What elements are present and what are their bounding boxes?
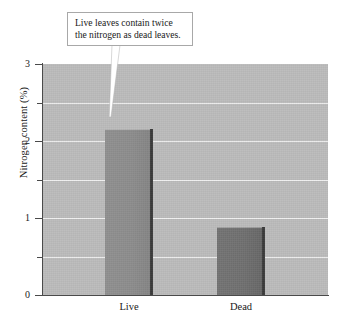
y-axis-title: Nitrogen content (%)	[18, 63, 29, 203]
y-tick-label-1: 1	[8, 213, 30, 223]
callout-line-2: the nitrogen as dead leaves.	[75, 29, 186, 41]
gridline-0_5	[42, 257, 328, 258]
x-tick-label-dead: Dead	[211, 301, 271, 312]
bar-live	[105, 129, 153, 295]
y-tick-0	[35, 295, 43, 296]
bar-chart-figure: 3 2 1 0 Nitrogen content (%) Live Dead L…	[0, 0, 337, 322]
plot-area	[42, 64, 328, 295]
bar-live-face	[105, 129, 153, 295]
y-tick-1_5	[37, 180, 43, 181]
y-tick-2_5	[37, 103, 43, 104]
gridline-2_5	[42, 103, 328, 104]
callout-line-1: Live leaves contain twice	[75, 17, 186, 29]
y-tick-2	[35, 141, 43, 142]
bar-dead-top-highlight	[217, 227, 265, 228]
y-tick-3	[35, 64, 43, 65]
gridline-1_5	[42, 180, 328, 181]
callout-annotation: Live leaves contain twice the nitrogen a…	[67, 12, 193, 46]
y-tick-0_5	[37, 257, 43, 258]
x-tick-label-live: Live	[99, 301, 159, 312]
y-tick-1	[35, 218, 43, 219]
bar-dead-face	[217, 227, 265, 295]
bar-live-right-edge	[150, 129, 153, 295]
bar-dead	[217, 227, 265, 295]
bar-dead-right-edge	[262, 227, 265, 295]
callout-pointer	[96, 45, 136, 137]
gridline-2_0	[42, 141, 328, 142]
gridline-1_0	[42, 218, 328, 219]
x-axis-line	[42, 295, 329, 296]
y-tick-label-0: 0	[8, 290, 30, 300]
